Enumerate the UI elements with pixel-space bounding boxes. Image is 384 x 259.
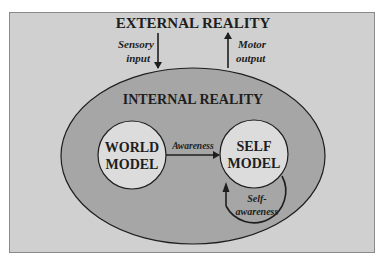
awareness-label: Awareness (171, 141, 214, 151)
world-model-label-line1: WORLD (105, 140, 159, 155)
sensory-input-label-line2: input (126, 52, 151, 64)
self-model-label-line2: MODEL (228, 156, 281, 171)
self-model-label-line1: SELF (236, 139, 271, 154)
world-model-node (98, 121, 166, 189)
diagram-canvas: EXTERNAL REALITY Sensory input Motor out… (0, 0, 384, 259)
motor-output-label-line1: Motor (237, 38, 267, 50)
self-awareness-label-line2: awareness (236, 206, 279, 217)
world-model-label-line2: MODEL (106, 157, 159, 172)
external-reality-title: EXTERNAL REALITY (116, 15, 271, 31)
sensory-input-label-line1: Sensory (118, 38, 154, 50)
self-awareness-label-line1: Self- (247, 193, 266, 204)
self-model-node (220, 120, 288, 188)
motor-output-label-line2: output (236, 52, 266, 64)
internal-reality-title: INTERNAL REALITY (123, 92, 263, 107)
